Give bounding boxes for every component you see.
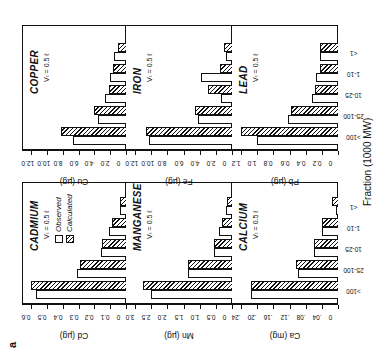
y-tick bbox=[322, 305, 323, 309]
legend: ObservedCalculated bbox=[54, 194, 74, 243]
calculated-swatch bbox=[66, 235, 74, 243]
y-tick bbox=[135, 305, 136, 309]
observed-bar bbox=[149, 136, 232, 145]
y-tick bbox=[200, 305, 201, 309]
y-tick bbox=[306, 305, 307, 309]
y-tick-label: 1.2 bbox=[232, 160, 250, 167]
calculated-bar bbox=[143, 281, 232, 290]
y-tick-label: 0 bbox=[329, 314, 347, 321]
y-axis-label: Fe (µg) bbox=[159, 177, 199, 187]
observed-bar bbox=[221, 94, 232, 103]
y-tick-label: 2.0 bbox=[158, 314, 176, 321]
category-label: >100 bbox=[339, 288, 369, 295]
y-tick-label: .04 bbox=[312, 314, 330, 321]
y-tick bbox=[151, 151, 152, 155]
panel-subtitle: Vₜ = 0.5 ℓ bbox=[252, 53, 260, 82]
y-tick-label: 0.5 bbox=[206, 314, 224, 321]
calculated-bar bbox=[113, 64, 126, 73]
y-axis-label: Cu (µg) bbox=[54, 177, 94, 187]
observed-bar bbox=[36, 290, 126, 299]
panel-subtitle: Vₜ = 0.5 ℓ bbox=[146, 53, 154, 82]
y-axis-label: Pb (µg) bbox=[265, 177, 305, 187]
observed-bar bbox=[312, 94, 338, 103]
y-tick-label: .08 bbox=[296, 314, 314, 321]
y-tick bbox=[216, 151, 217, 155]
y-tick-label: 0.6 bbox=[280, 160, 298, 167]
panel-subtitle: Vₜ = 0.5 ℓ bbox=[43, 210, 51, 239]
y-tick bbox=[241, 305, 242, 309]
calculated-bar bbox=[31, 281, 126, 290]
y-tick bbox=[184, 305, 185, 309]
observed-bar bbox=[251, 290, 338, 299]
y-tick bbox=[306, 151, 307, 155]
calculated-bar bbox=[220, 64, 232, 73]
observed-bar bbox=[316, 73, 338, 82]
panel-subtitle: Vₜ = 0.5 ℓ bbox=[252, 210, 260, 239]
calculated-bar bbox=[80, 260, 126, 269]
category-label: 25-100 bbox=[339, 267, 369, 274]
calculated-bar bbox=[208, 85, 232, 94]
observed-bar bbox=[257, 136, 338, 145]
y-tick bbox=[184, 151, 185, 155]
observed-bar bbox=[109, 227, 126, 236]
calculated-bar bbox=[102, 239, 126, 248]
panel-manganese: MANGANESEVₜ = 0.5 ℓ bbox=[126, 182, 232, 304]
y-tick-label: 0.2 bbox=[85, 314, 103, 321]
y-tick-label: 0.4 bbox=[296, 160, 314, 167]
figure-label: a bbox=[6, 342, 18, 348]
y-tick bbox=[94, 305, 95, 309]
y-tick bbox=[338, 151, 339, 155]
y-tick bbox=[338, 305, 339, 309]
observed-bar bbox=[98, 115, 127, 124]
y-tick bbox=[232, 151, 233, 155]
panel-title: MANGANESE bbox=[132, 183, 143, 251]
x-axis-title: Fraction (1000 MW) bbox=[362, 118, 373, 206]
panel-title: CADMIUM bbox=[29, 201, 40, 251]
y-tick bbox=[110, 151, 111, 155]
y-tick-label: 0.4 bbox=[53, 314, 71, 321]
y-tick bbox=[200, 151, 201, 155]
calculated-bar bbox=[222, 218, 232, 227]
calculated-bar bbox=[332, 197, 338, 206]
y-tick bbox=[47, 305, 48, 309]
y-tick-label: 0.1 bbox=[101, 314, 119, 321]
y-tick-label: 10.0 bbox=[37, 160, 55, 167]
y-tick bbox=[273, 151, 274, 155]
y-tick-label: 3.0 bbox=[126, 314, 144, 321]
observed-bar bbox=[198, 115, 232, 124]
calculated-bar bbox=[94, 106, 126, 115]
panel-subtitle: Vₜ = 0.5 ℓ bbox=[146, 210, 154, 239]
panel-cadmium: CADMIUMVₜ = 0.5 ℓObservedCalculated bbox=[22, 182, 126, 304]
y-tick-label: 2.0 bbox=[101, 160, 119, 167]
y-tick bbox=[167, 151, 168, 155]
observed-bar bbox=[201, 73, 232, 82]
panel-lead: LEADVₜ = 0.5 ℓ bbox=[232, 25, 338, 150]
y-tick-label: 0 bbox=[329, 160, 347, 167]
y-tick-label: 0.5 bbox=[37, 314, 55, 321]
observed-bar bbox=[214, 248, 232, 257]
observed-bar bbox=[314, 248, 338, 257]
y-tick-label: 0.6 bbox=[22, 314, 40, 321]
legend-observed: Observed bbox=[54, 194, 63, 243]
y-tick bbox=[322, 151, 323, 155]
y-tick-label: 6.0 bbox=[174, 160, 192, 167]
observed-bar bbox=[101, 248, 126, 257]
category-label: 1-10 bbox=[339, 71, 369, 78]
category-label: 1-10 bbox=[339, 225, 369, 232]
observed-bar bbox=[322, 227, 338, 236]
y-tick bbox=[94, 151, 95, 155]
category-label: 10-25 bbox=[339, 246, 369, 253]
y-tick bbox=[63, 151, 64, 155]
y-tick-label: 0.8 bbox=[264, 160, 282, 167]
y-tick bbox=[79, 151, 80, 155]
calculated-bar bbox=[195, 106, 232, 115]
observed-bar bbox=[110, 73, 126, 82]
panel-subtitle: Vₜ = 0.5 ℓ bbox=[43, 53, 51, 82]
calculated-bar bbox=[296, 260, 338, 269]
panel-calcium: CALCIUMVₜ = 0.5 ℓ bbox=[232, 182, 338, 304]
y-tick bbox=[167, 305, 168, 309]
y-tick-label: 2.0 bbox=[206, 160, 224, 167]
observed-bar bbox=[151, 290, 232, 299]
y-tick bbox=[63, 305, 64, 309]
y-tick bbox=[241, 151, 242, 155]
